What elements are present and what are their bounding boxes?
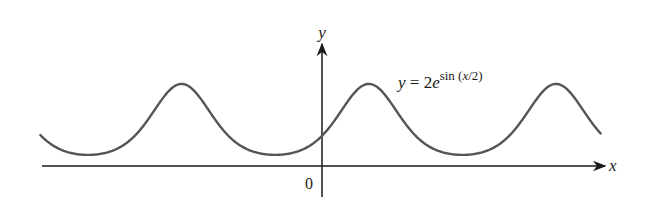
annotation-exponent: sin (: [440, 68, 463, 83]
curve-y-2e-sin-x-over-2: [40, 84, 600, 155]
annotation-y: y: [396, 73, 406, 92]
function-graph: y x 0 y = 2esin (x/2): [0, 0, 647, 197]
x-axis-label: x: [608, 156, 617, 175]
y-axis-label: y: [316, 23, 326, 42]
function-annotation: y = 2esin (x/2): [396, 68, 483, 92]
origin-label: 0: [305, 175, 313, 192]
annotation-exponent-tail: /2): [468, 68, 482, 83]
annotation-equals: = 2: [406, 73, 433, 92]
